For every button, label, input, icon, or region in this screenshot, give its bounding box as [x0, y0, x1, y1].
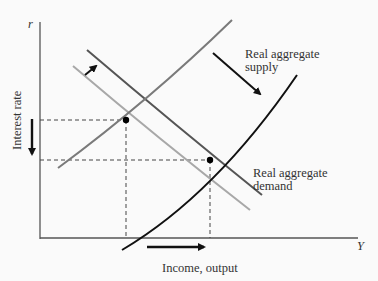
diagram-canvas [0, 0, 378, 281]
initial-equilibrium-point [123, 117, 129, 123]
x-axis-label: Income, output [162, 262, 238, 275]
dashed-guides [40, 120, 210, 238]
supply-initial-curve [58, 20, 232, 168]
y-axis-symbol: r [28, 18, 33, 31]
demand-shift-arrow-icon [85, 66, 96, 75]
supply-label-line2: supply [245, 61, 278, 74]
demand-initial-curve [73, 66, 250, 210]
demand-label-line2: demand [253, 180, 293, 193]
x-axis-symbol: Y [357, 240, 364, 253]
y-axis-label: Interest rate [11, 91, 24, 150]
final-equilibrium-point [207, 157, 213, 163]
